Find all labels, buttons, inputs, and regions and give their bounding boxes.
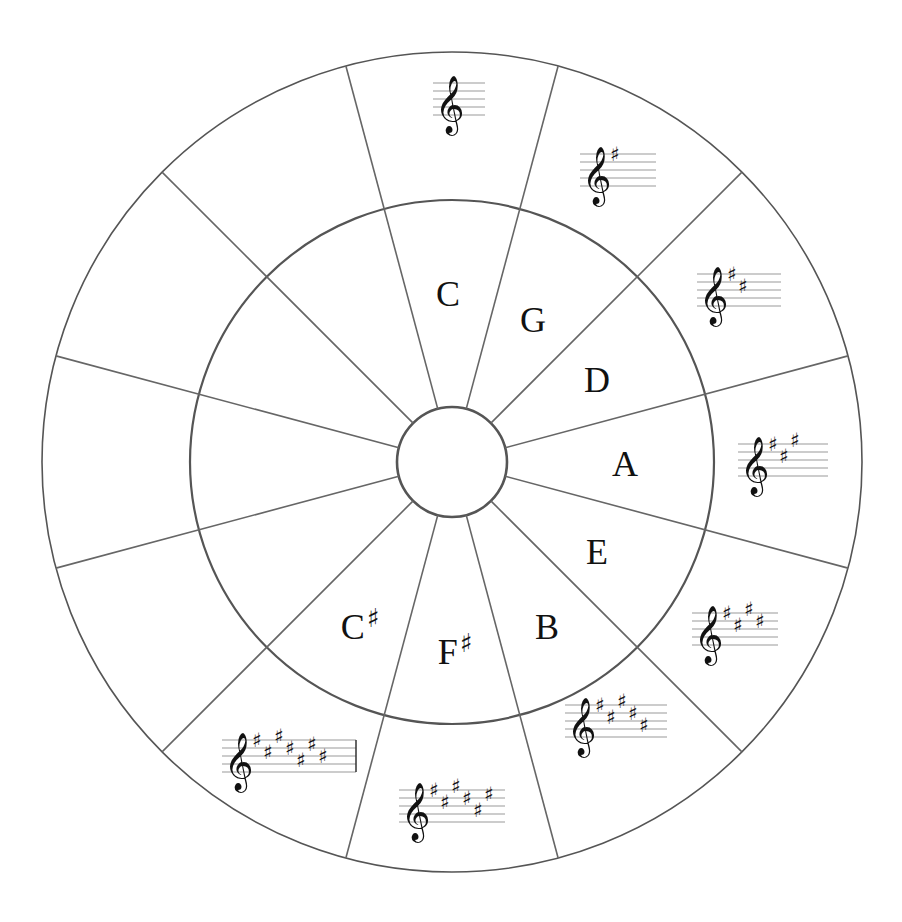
sharp-icon: ♯	[722, 601, 732, 625]
sharp-icon: ♯	[460, 628, 473, 658]
key-signature-f-sharp: 𝄞♯♯♯♯♯♯	[399, 774, 505, 843]
key-signature-c: 𝄞	[433, 75, 485, 136]
treble-clef-icon: 𝄞	[567, 697, 597, 758]
treble-clef-icon: 𝄞	[401, 782, 431, 843]
key-signature-g: 𝄞♯	[580, 142, 656, 207]
sharp-icon: ♯	[790, 428, 800, 452]
sharp-icon: ♯	[727, 262, 737, 286]
treble-clef-icon: 𝄞	[435, 75, 465, 136]
key-letter: C	[341, 607, 365, 647]
key-letter: E	[586, 532, 608, 572]
sharp-icon: ♯	[738, 274, 748, 298]
key-signature-c-sharp: 𝄞♯♯♯♯♯♯♯	[222, 724, 356, 793]
sector-dividers	[56, 66, 848, 858]
sharp-icon: ♯	[755, 609, 765, 633]
key-label-c-sharp: C♯	[341, 605, 380, 645]
key-letter: F	[438, 632, 458, 672]
sharp-icon: ♯	[367, 603, 380, 633]
sharp-icon: ♯	[296, 748, 306, 772]
key-signature-e: 𝄞♯♯♯♯	[692, 597, 778, 666]
sharp-icon: ♯	[263, 740, 273, 764]
sharp-icon: ♯	[610, 142, 620, 166]
sharp-icon: ♯	[779, 444, 789, 468]
sharp-icon: ♯	[429, 778, 439, 802]
sector-divider	[505, 476, 848, 568]
key-label-e: E	[586, 530, 610, 570]
key-letter: A	[612, 444, 638, 484]
treble-clef-icon: 𝄞	[224, 732, 254, 793]
sharp-icon: ♯	[318, 744, 328, 768]
sharp-icon: ♯	[617, 689, 627, 713]
circle-of-fifths-diagram: 𝄞𝄞♯𝄞♯♯𝄞♯♯♯𝄞♯♯♯♯𝄞♯♯♯♯♯𝄞♯♯♯♯♯♯𝄞♯♯♯♯♯♯♯	[0, 0, 902, 922]
treble-clef-icon: 𝄞	[699, 266, 729, 327]
key-letter: D	[584, 360, 610, 400]
sharp-icon: ♯	[606, 705, 616, 729]
sector-divider	[346, 66, 438, 409]
sharp-icon: ♯	[473, 798, 483, 822]
sharp-icon: ♯	[307, 732, 317, 756]
treble-clef-icon: 𝄞	[582, 146, 612, 207]
key-signature-a: 𝄞♯♯♯	[738, 428, 828, 497]
key-signature-d: 𝄞♯♯	[697, 262, 781, 327]
key-label-f-sharp: F♯	[438, 630, 473, 670]
key-letter: C	[436, 274, 460, 314]
sharp-icon: ♯	[285, 736, 295, 760]
key-letter: G	[520, 300, 546, 340]
sharp-icon: ♯	[639, 713, 649, 737]
sharp-icon: ♯	[252, 728, 262, 752]
sharp-icon: ♯	[484, 782, 494, 806]
key-label-d: D	[584, 358, 612, 398]
sector-divider	[466, 66, 558, 409]
key-signature-b: 𝄞♯♯♯♯♯	[565, 689, 667, 758]
treble-clef-icon: 𝄞	[740, 436, 770, 497]
key-label-b: B	[535, 605, 561, 645]
sharp-icon: ♯	[462, 786, 472, 810]
sector-divider	[162, 172, 413, 423]
sector-divider	[56, 356, 399, 448]
sharp-icon: ♯	[440, 790, 450, 814]
key-letter: B	[535, 607, 559, 647]
treble-clef-icon: 𝄞	[694, 605, 724, 666]
inner-circle	[397, 407, 507, 517]
sharp-icon: ♯	[733, 613, 743, 637]
key-label-c: C	[436, 272, 462, 312]
sharp-icon: ♯	[274, 724, 284, 748]
key-label-a: A	[612, 442, 640, 482]
sector-divider	[56, 476, 399, 568]
sharp-icon: ♯	[595, 693, 605, 717]
sharp-icon: ♯	[744, 597, 754, 621]
sharp-icon: ♯	[628, 701, 638, 725]
sharp-icon: ♯	[768, 432, 778, 456]
key-label-g: G	[520, 298, 548, 338]
sharp-icon: ♯	[451, 774, 461, 798]
